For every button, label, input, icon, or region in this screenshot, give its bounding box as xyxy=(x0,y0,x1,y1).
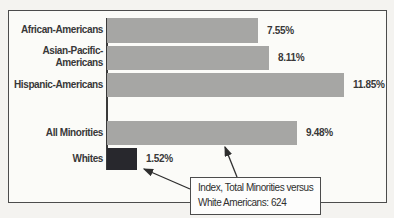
category-label-line: Asian-Pacific- xyxy=(4,45,103,57)
value-label: 1.52% xyxy=(146,148,173,170)
figure: African-Americans7.55%Asian-Pacific-Amer… xyxy=(0,0,394,218)
category-label-line: All Minorities xyxy=(4,127,103,139)
value-label: 11.85% xyxy=(353,73,385,97)
category-label: Whites xyxy=(4,153,103,165)
category-label: Asian-Pacific-Americans xyxy=(4,45,103,69)
category-label: African-Americans xyxy=(4,24,103,36)
category-label-line: Whites xyxy=(4,153,103,165)
callout-text-line-2: White Americans: 624 xyxy=(198,196,313,211)
callout-box: Index, Total Minorities versus White Ame… xyxy=(190,177,321,215)
bar xyxy=(107,73,344,97)
value-label: 8.11% xyxy=(278,46,304,70)
callout-text-line-1: Index, Total Minorities versus xyxy=(198,181,313,196)
value-label: 7.55% xyxy=(267,18,294,43)
category-label-line: African-Americans xyxy=(4,24,103,36)
category-label: Hispanic-Americans xyxy=(4,79,103,91)
bar xyxy=(107,121,297,145)
value-label: 9.48% xyxy=(306,121,333,145)
bar xyxy=(107,148,137,170)
category-label-line: Americans xyxy=(4,57,103,69)
category-label: All Minorities xyxy=(4,127,103,139)
bar xyxy=(107,18,258,43)
bar xyxy=(107,46,269,70)
category-label-line: Hispanic-Americans xyxy=(4,79,103,91)
